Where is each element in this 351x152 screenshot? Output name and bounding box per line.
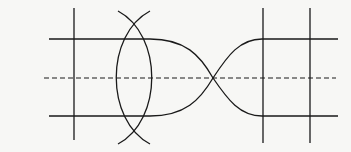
bottom-horizontal-right xyxy=(213,78,338,116)
top-horizontal-right xyxy=(213,39,338,78)
diagram-canvas xyxy=(0,0,351,152)
